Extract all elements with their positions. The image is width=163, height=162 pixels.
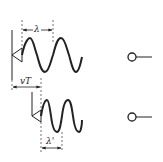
triangle-source-icon [32,110,41,122]
triangle-source-icon [12,48,22,62]
bottom-panel: λ' [32,92,152,152]
doppler-diagram: λ vT λ' [0,0,163,162]
top-panel: λ [12,20,152,80]
displacement-marker: vT [12,76,41,116]
wavelength-label: λ [33,24,40,34]
displacement-label: vT [20,76,32,86]
wave-bottom [41,100,82,132]
wave-top [22,38,82,72]
observer-icon [128,113,152,121]
wavelength-label-prime: λ' [45,136,54,146]
observer-icon [128,53,152,61]
